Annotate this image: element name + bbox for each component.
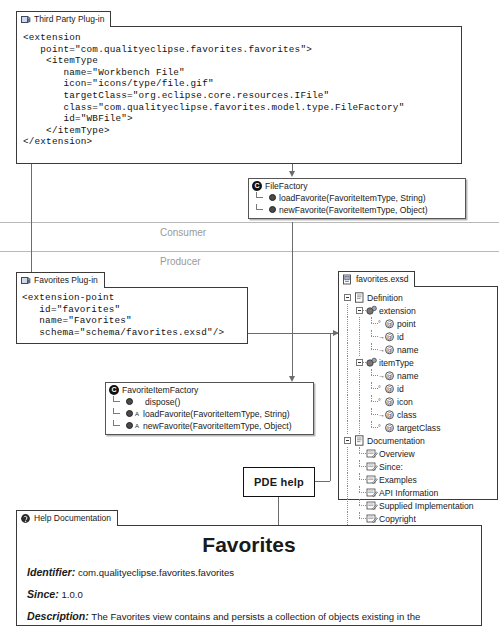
tab-help-documentation[interactable]: Help Documentation — [16, 510, 118, 526]
tab-favorites-exsd[interactable]: favorites.exsd — [338, 271, 415, 287]
tree-indent-guide — [342, 343, 354, 356]
tree-branch-icon — [366, 330, 378, 343]
tab-third-party-plugin-label: Third Party Plug-in — [34, 12, 104, 27]
tree-indent-guide — [342, 369, 354, 382]
tree-indent-guide — [342, 460, 354, 473]
svg-text:@: @ — [386, 398, 393, 406]
tree-indent-guide — [342, 473, 354, 486]
svg-text:@: @ — [386, 424, 393, 432]
class-icon: C — [252, 181, 262, 191]
exsd-tree-row[interactable]: →@name — [342, 343, 497, 356]
tree-indent-guide — [342, 317, 354, 330]
exsd-tree-row-label: targetClass — [397, 423, 440, 433]
tree-indent-guide — [342, 382, 354, 395]
exsd-tree-row-label: point — [397, 319, 416, 329]
tree-branch-icon — [354, 499, 366, 512]
uml-favoriteitemfactory-title: FavoriteItemFactory — [122, 385, 198, 395]
uml-favoriteitemfactory-member: A newFavorite(FavoriteItemType, Object) — [106, 420, 313, 434]
uml-filefactory-member: loadFavorite(FavoriteItemType, String) — [249, 192, 465, 204]
attribute-icon: @ — [384, 318, 395, 329]
uml-filefactory-member-label: newFavorite(FavoriteItemType, Object) — [279, 205, 428, 215]
exsd-tree-row[interactable]: Definition — [342, 291, 497, 304]
attribute-icon: @ — [384, 383, 395, 394]
third-party-plugin-code: <extension point="com.qualityeclipse.fav… — [17, 27, 461, 148]
exsd-tree-row-label: id — [397, 384, 404, 394]
uml-favoriteitemfactory-member: dispose() — [106, 396, 313, 408]
exsd-tree-row[interactable]: Copyright — [342, 512, 497, 525]
expander-collapse-icon[interactable] — [354, 304, 366, 317]
tree-indent-guide — [354, 343, 366, 356]
exsd-tree-row-label: Supplied Implementation — [379, 501, 474, 511]
tree-branch-icon — [109, 408, 122, 419]
favorites-plugin-panel: <extension-point id="favorites" name="Fa… — [16, 287, 248, 344]
arrow-to-filefactory — [289, 171, 295, 177]
attribute-icon: @ — [384, 331, 395, 342]
doc-section-icon — [366, 500, 377, 511]
method-icon — [269, 206, 276, 213]
exsd-tree-row[interactable]: °@id — [342, 382, 497, 395]
tree-branch-icon — [252, 192, 265, 203]
tree-indent-guide — [342, 330, 354, 343]
exsd-tree-row[interactable]: °@point — [342, 317, 497, 330]
third-party-plugin-panel: <extension point="com.qualityeclipse.fav… — [16, 26, 462, 164]
exsd-tree-row-label: Documentation — [367, 436, 425, 446]
tree-branch-icon — [366, 317, 378, 330]
attribute-icon: @ — [384, 396, 395, 407]
exsd-tree-row-label: icon — [397, 397, 413, 407]
tree-indent-guide — [342, 512, 354, 525]
expander-collapse-icon[interactable] — [342, 434, 354, 447]
expander-collapse-icon[interactable] — [342, 291, 354, 304]
exsd-tree-row[interactable]: →@class — [342, 408, 497, 421]
class-icon: C — [109, 385, 119, 395]
tree-indent-guide — [354, 408, 366, 421]
doc-section-icon — [366, 448, 377, 459]
exsd-tree-row[interactable]: API Information — [342, 486, 497, 499]
tree-indent-guide — [342, 421, 354, 434]
plugin-icon — [20, 14, 31, 25]
exsd-tree-row[interactable]: Examples — [342, 473, 497, 486]
tree-branch-icon — [366, 408, 378, 421]
exsd-tree[interactable]: Definitionextension°@point→@id→@nameitem… — [339, 287, 497, 525]
exsd-tree-row[interactable]: °@targetClass — [342, 421, 497, 434]
tree-branch-icon — [354, 486, 366, 499]
exsd-tree-row[interactable]: Overview — [342, 447, 497, 460]
tab-favorites-plugin[interactable]: Favorites Plug-in — [16, 272, 105, 288]
abstract-marker: A — [135, 411, 139, 417]
exsd-tree-row[interactable]: itemType — [342, 356, 497, 369]
exsd-tree-row[interactable]: →@id — [342, 330, 497, 343]
pde-help-label: PDE help — [254, 476, 304, 488]
exsd-tree-row[interactable]: Since: — [342, 460, 497, 473]
help-documentation-panel: Favorites Identifier: com.qualityeclipse… — [16, 525, 482, 626]
attribute-icon: @ — [384, 370, 395, 381]
uml-favoriteitemfactory-member: A loadFavorite(FavoriteItemType, String) — [106, 408, 313, 420]
connector-filefactory-to-favoriteitemfactory — [292, 222, 293, 377]
tree-branch-icon — [366, 369, 378, 382]
plugin-icon — [20, 275, 31, 286]
exsd-tree-row[interactable]: extension — [342, 304, 497, 317]
doc-section-icon — [366, 513, 377, 524]
method-icon — [269, 194, 276, 201]
doc-section-icon — [366, 474, 377, 485]
exsd-tree-row[interactable]: °@icon — [342, 395, 497, 408]
exsd-tree-row-label: extension — [379, 306, 416, 316]
exsd-tree-row-label: class — [397, 410, 417, 420]
expander-collapse-icon[interactable] — [354, 356, 366, 369]
tree-indent-guide — [354, 317, 366, 330]
lane-divider-top — [0, 222, 499, 223]
help-row-description-label: Description: — [27, 610, 89, 622]
tree-indent-guide — [342, 499, 354, 512]
tab-third-party-plugin[interactable]: Third Party Plug-in — [16, 11, 111, 27]
tab-favorites-exsd-label: favorites.exsd — [356, 272, 408, 287]
exsd-tree-row[interactable]: Supplied Implementation — [342, 499, 497, 512]
exsd-tree-row[interactable]: →@name — [342, 369, 497, 382]
exsd-tree-row-label: Definition — [367, 293, 403, 303]
svg-text:@: @ — [386, 411, 393, 419]
tree-indent-guide — [342, 356, 354, 369]
tab-favorites-plugin-label: Favorites Plug-in — [34, 273, 98, 288]
tree-branch-icon — [354, 460, 366, 473]
exsd-tree-row[interactable]: Documentation — [342, 434, 497, 447]
lane-label-consumer: Consumer — [160, 227, 206, 238]
tree-branch-icon — [252, 204, 265, 215]
svg-text:@: @ — [386, 385, 393, 393]
